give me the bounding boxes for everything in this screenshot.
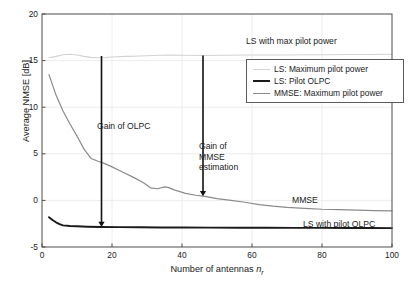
legend-item-label: MMSE: Maximum pilot power — [274, 88, 383, 98]
gain-of-olpc-label: Gain of OLPC — [97, 121, 151, 132]
x-tick-label: 40 — [167, 250, 197, 260]
legend-swatch-icon — [253, 69, 270, 70]
x-tick-label: 100 — [377, 250, 407, 260]
x-axis-label-text: Number of antennas — [170, 264, 256, 274]
legend-item-label: LS: Maximum pilot power — [274, 64, 368, 74]
legend-swatch-icon — [253, 80, 270, 82]
y-tick-label: 20 — [14, 9, 38, 19]
ls-with-pilot-olpc-label: LS with pilot OLPC — [303, 219, 375, 230]
x-tick-label: 60 — [237, 250, 267, 260]
axes-frame — [42, 14, 392, 247]
x-tick-label: 0 — [27, 250, 57, 260]
gain-of-mmse-estimation-label-line: Gain of — [199, 141, 238, 152]
y-tick-label: 15 — [14, 55, 38, 65]
x-tick-label: 20 — [97, 250, 127, 260]
y-tick-label: 10 — [14, 102, 38, 112]
legend-item-0[interactable]: LS: Maximum pilot power — [249, 63, 400, 75]
series-line-0 — [49, 54, 392, 58]
x-axis-label: Number of antennas nr — [42, 264, 392, 276]
gain-of-mmse-estimation-label: Gain ofMMSEestimation — [199, 141, 238, 173]
legend-item-1[interactable]: LS: Pilot OLPC — [249, 75, 400, 87]
y-tick-label: 5 — [14, 148, 38, 158]
legend-swatch-icon — [253, 93, 270, 94]
legend-item-label: LS: Pilot OLPC — [274, 76, 330, 86]
gain-of-mmse-estimation-label-line: MMSE — [199, 152, 238, 163]
legend-item-2[interactable]: MMSE: Maximum pilot power — [249, 87, 400, 99]
ls-max-pilot-power-label: LS with max pilot power — [246, 36, 337, 47]
legend: LS: Maximum pilot powerLS: Pilot OLPCMMS… — [246, 59, 404, 103]
x-axis-label-subscript: r — [261, 269, 263, 276]
chart-figure: Average NMSE [dB] Number of antennas nr … — [0, 0, 410, 283]
y-tick-label: 0 — [14, 195, 38, 205]
gain-of-mmse-estimation-label-line: estimation — [199, 162, 238, 173]
x-tick-label: 80 — [307, 250, 337, 260]
mmse-curve-label: MMSE — [292, 195, 318, 206]
